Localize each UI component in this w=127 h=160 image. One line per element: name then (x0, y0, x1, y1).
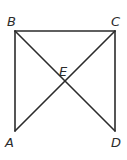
point-label-e: E (59, 64, 68, 79)
point-label-c: C (111, 14, 121, 29)
segments-group (15, 31, 115, 131)
point-label-b: B (7, 14, 16, 29)
point-label-a: A (4, 135, 14, 150)
point-label-d: D (111, 135, 121, 150)
geometry-diagram: B C E A D (0, 0, 127, 160)
labels-group: B C E A D (4, 14, 121, 150)
